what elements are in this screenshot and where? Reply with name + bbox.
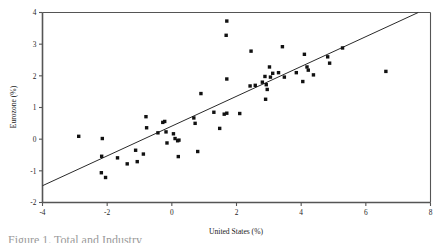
data-point xyxy=(212,111,215,114)
data-point xyxy=(142,152,145,155)
x-tick-label: 6 xyxy=(364,208,368,217)
data-point xyxy=(249,49,252,52)
x-tick-label: 2 xyxy=(235,208,239,217)
y-axis-title: Eurozone (%) xyxy=(9,85,18,128)
x-tick-label: -2 xyxy=(104,208,110,217)
data-point xyxy=(100,155,103,158)
data-point xyxy=(225,112,228,115)
data-point xyxy=(238,112,241,115)
y-tick-label: 1 xyxy=(33,103,37,112)
data-point xyxy=(312,73,315,76)
data-point xyxy=(163,120,166,123)
data-point xyxy=(384,70,387,73)
data-point xyxy=(144,115,147,118)
data-point xyxy=(224,34,227,37)
data-point xyxy=(281,45,284,48)
data-point xyxy=(277,71,280,74)
data-point xyxy=(268,65,271,68)
data-point xyxy=(261,80,264,83)
data-point xyxy=(283,75,286,78)
data-point xyxy=(266,88,269,91)
data-point xyxy=(328,61,331,64)
data-point xyxy=(271,72,274,75)
data-point xyxy=(254,84,257,87)
data-point xyxy=(263,75,266,78)
figure-container: -4-202468 -2-101234 United States (%) Eu… xyxy=(0,0,446,243)
data-point xyxy=(305,65,308,68)
data-point xyxy=(104,176,107,179)
data-point xyxy=(218,127,221,130)
x-tick-label: 8 xyxy=(429,208,433,217)
x-tick-label: -4 xyxy=(39,208,45,217)
data-point xyxy=(193,122,196,125)
scatter-chart: -4-202468 -2-101234 United States (%) Eu… xyxy=(0,0,446,243)
data-point xyxy=(177,155,180,158)
y-axis-ticks: -2-101234 xyxy=(30,8,42,207)
data-point xyxy=(192,116,195,119)
y-tick-label: 3 xyxy=(33,40,37,49)
data-point xyxy=(303,53,306,56)
data-point xyxy=(264,98,267,101)
x-tick-label: 0 xyxy=(170,208,174,217)
data-point xyxy=(269,75,272,78)
y-tick-label: 0 xyxy=(33,135,37,144)
data-point xyxy=(165,141,168,144)
y-tick-label: -2 xyxy=(30,198,36,207)
data-point xyxy=(248,84,251,87)
x-axis-ticks: -4-202468 xyxy=(39,203,432,217)
data-point xyxy=(126,162,129,165)
y-tick-label: 2 xyxy=(33,72,37,81)
data-point xyxy=(156,131,159,134)
regression-line xyxy=(43,13,419,186)
data-point xyxy=(172,132,175,135)
x-tick-label: 4 xyxy=(299,208,303,217)
data-point xyxy=(77,135,80,138)
figure-caption: Figure 1. Total and Industry xyxy=(8,234,248,243)
data-point xyxy=(145,126,148,129)
y-tick-label: -1 xyxy=(30,167,36,176)
data-point xyxy=(134,149,137,152)
data-point xyxy=(136,160,139,163)
data-point xyxy=(164,130,167,133)
regression-line-segment xyxy=(43,13,419,186)
data-points xyxy=(77,19,388,179)
data-point xyxy=(295,71,298,74)
data-point xyxy=(100,171,103,174)
data-point xyxy=(225,77,228,80)
data-point xyxy=(265,83,268,86)
data-point xyxy=(116,156,119,159)
data-point xyxy=(301,80,304,83)
data-point xyxy=(196,150,199,153)
data-point xyxy=(177,138,180,141)
y-tick-label: 4 xyxy=(33,8,37,17)
data-point xyxy=(341,46,344,49)
data-point xyxy=(101,137,104,140)
data-point xyxy=(225,19,228,22)
data-point xyxy=(307,68,310,71)
data-point xyxy=(326,55,329,58)
data-point xyxy=(199,92,202,95)
